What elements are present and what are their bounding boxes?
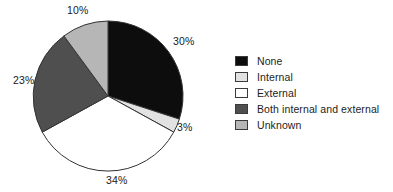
legend-swatch-icon	[235, 104, 248, 114]
chart-legend: None Internal External Both internal and…	[235, 53, 391, 133]
pie-label-both: 23%	[13, 75, 35, 86]
pie-label-external: 34%	[106, 175, 128, 186]
legend-item-label: External	[257, 88, 296, 99]
legend-item-both-internal-and-external: Both internal and external	[235, 101, 391, 117]
legend-item-external: External	[235, 85, 391, 101]
pie-label-internal: 3%	[177, 122, 193, 133]
legend-item-none: None	[235, 53, 391, 69]
legend-swatch-icon	[235, 88, 248, 98]
pie-label-unknown: 10%	[67, 5, 89, 16]
legend-item-unknown: Unknown	[235, 117, 391, 133]
pie-label-none: 30%	[173, 36, 195, 47]
legend-item-label: Both internal and external	[257, 104, 379, 115]
legend-item-label: Unknown	[257, 120, 301, 131]
legend-item-internal: Internal	[235, 69, 391, 85]
pie-chart-figure: 30% 3% 34% 23% 10% None Internal Externa…	[0, 0, 393, 192]
legend-swatch-icon	[235, 120, 248, 130]
legend-swatch-icon	[235, 72, 248, 82]
legend-item-label: None	[257, 56, 283, 67]
legend-swatch-icon	[235, 56, 248, 66]
legend-item-label: Internal	[257, 72, 293, 83]
